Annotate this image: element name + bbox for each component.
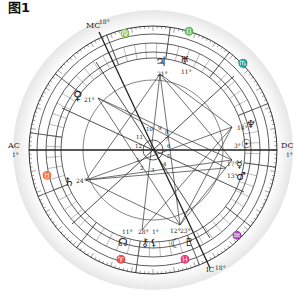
svg-text:9: 9: [158, 125, 162, 131]
ic-degree: 18°: [215, 264, 226, 271]
ic-label: IC: [206, 266, 214, 274]
dsc-degree: 1°: [286, 151, 293, 158]
uranus-icon: ♅: [180, 54, 190, 67]
sign-scorpio-icon: ♏: [238, 58, 248, 68]
mars-degree: 13°: [227, 172, 238, 179]
lilith-icon: ⚸: [150, 237, 157, 248]
sign-taurus-icon: ♉: [42, 170, 52, 180]
neptune-degree: 14°: [237, 124, 248, 131]
svg-text:11: 11: [136, 134, 143, 140]
svg-text:1: 1: [136, 157, 140, 163]
sign-aries-icon: ♈: [116, 254, 126, 264]
svg-text:12: 12: [135, 143, 142, 149]
svg-text:6: 6: [167, 143, 171, 149]
pluto-degree: 23°: [180, 227, 191, 234]
svg-text:2: 2: [140, 165, 144, 171]
svg-text:7: 7: [165, 136, 169, 142]
natal-chart-wheel: AC 1° DC 1° MC 18° IC 18° ♍ ♎ ♏ ♒ ♓ ♈ ♉ …: [0, 0, 306, 296]
saturn-icon: ♄: [64, 175, 75, 189]
svg-text:3: 3: [151, 167, 155, 173]
uranus-degree: 11°: [181, 68, 192, 75]
chiron-icon: ⚷: [141, 236, 149, 249]
sign-virgo-icon: ♍: [120, 28, 130, 38]
sign-libra-icon: ♎: [184, 26, 194, 36]
sun-icon: ☉: [241, 137, 252, 151]
node-degree: 11°: [122, 228, 133, 235]
jupiter-degree: 21°: [157, 70, 168, 77]
mc-degree: 18°: [99, 18, 110, 25]
dsc-label: DC: [281, 141, 294, 150]
mercury-degree: 17°: [227, 160, 238, 167]
asc-degree: 1°: [12, 151, 19, 158]
pluto-icon: ♇: [184, 236, 194, 249]
node-icon: ☊: [118, 236, 128, 249]
asc-label: AC: [7, 141, 20, 150]
svg-text:10: 10: [146, 126, 153, 132]
sign-pisces-icon: ♓: [180, 254, 190, 264]
moon-icon: ☾: [170, 236, 182, 251]
svg-text:8: 8: [165, 129, 169, 135]
jupiter-icon: ♃: [155, 54, 167, 69]
venus-degree: 21°: [84, 96, 95, 103]
saturn-degree: 24°: [76, 177, 87, 184]
svg-text:4: 4: [163, 161, 167, 167]
venus-icon: ♀: [73, 88, 83, 103]
chiron-degree: 28°: [138, 228, 149, 235]
sun-degree: 3°: [234, 142, 241, 149]
lilith-degree: 1°: [152, 228, 159, 235]
svg-text:5: 5: [167, 153, 171, 159]
sign-aquarius-icon: ♒: [232, 230, 242, 240]
